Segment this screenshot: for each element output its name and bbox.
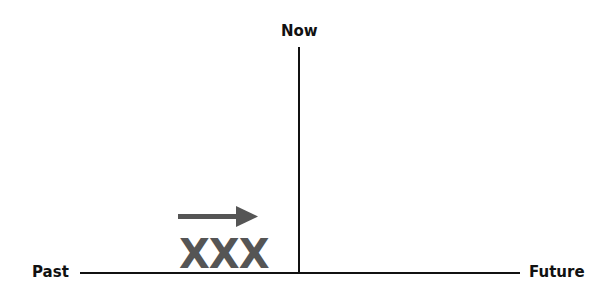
past-label: Past	[32, 265, 69, 280]
now-label: Now	[281, 24, 318, 39]
future-label: Future	[529, 265, 585, 280]
marker-label: XXX	[179, 234, 269, 274]
timeline-diagram	[0, 0, 609, 297]
arrow-right-icon	[178, 206, 258, 227]
